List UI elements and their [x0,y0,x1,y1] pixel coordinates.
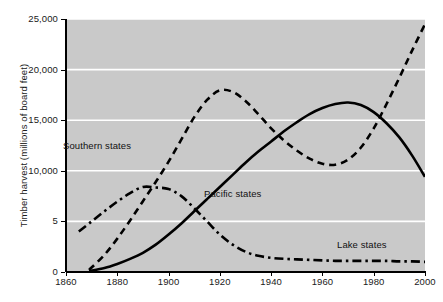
y-tick-label: 5 [6,216,58,226]
y-tick [61,120,65,121]
x-tick-label: 2000 [402,277,443,287]
y-tick [61,272,65,273]
x-axis-line [66,271,426,273]
x-tick-label: 1940 [248,277,294,287]
x-tick-label: 1860 [43,277,89,287]
y-tick [61,19,65,20]
y-tick [61,221,65,222]
series-label-pacific-states: Pacific states [204,188,261,199]
y-tick-label: 25,000 [6,14,58,24]
y-tick [61,171,65,172]
x-tick-label: 1980 [351,277,397,287]
x-tick-label: 1960 [299,277,345,287]
y-tick [61,70,65,71]
y-tick-label: 10,000 [6,166,58,176]
series-label-southern-states: Southern states [63,140,131,151]
y-axis-title: Timber harvest (millions of board feet) [18,26,29,266]
y-tick-label: 0 [6,267,58,277]
y-tick-label: 15,000 [6,115,58,125]
series-line-southern-states [89,24,425,270]
x-tick-label: 1880 [94,277,140,287]
x-tick-label: 1900 [146,277,192,287]
series-label-lake-states: Lake states [337,239,387,250]
y-tick-label: 20,000 [6,65,58,75]
chart-figure: Timber harvest (millions of board feet) … [0,0,443,302]
x-tick-label: 1920 [197,277,243,287]
